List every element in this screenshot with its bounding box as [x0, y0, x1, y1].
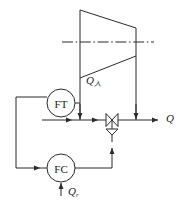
steam-inlet-label: Q入: [86, 75, 101, 88]
pid-schematic-canvas: FT FC: [0, 0, 184, 211]
ft-to-fc-signal-path: [16, 97, 47, 168]
fc-to-valve-signal-path: [75, 148, 112, 168]
outlet-flow-label: Q: [166, 113, 174, 126]
setpoint-label: Qr: [68, 186, 79, 199]
flow-transmitter-tag: FT: [55, 98, 68, 110]
figure-caption: [0, 202, 184, 211]
flow-controller-tag: FC: [54, 163, 67, 175]
trapezoid-vessel-outline: [80, 10, 136, 120]
process-control-diagram: FT FC Q入 Q Qr: [0, 0, 184, 211]
